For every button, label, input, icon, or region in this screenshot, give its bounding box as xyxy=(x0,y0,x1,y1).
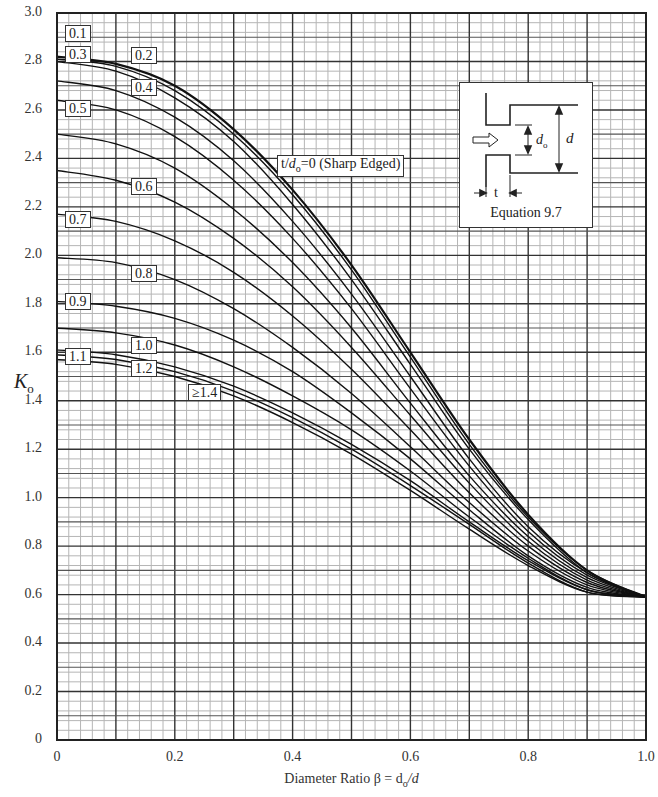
inset-label-do-sub: o xyxy=(543,140,548,150)
y-tick-label: 0.4 xyxy=(2,634,42,650)
sharp-label-prefix: t/ xyxy=(281,156,289,171)
inset-label-d: d xyxy=(566,130,574,147)
curve-label: 1.1 xyxy=(65,348,91,365)
sharp-edged-label: t/do=0 (Sharp Edged) xyxy=(277,155,404,177)
x-tick-label: 1.0 xyxy=(637,749,655,765)
curve-label: 0.8 xyxy=(131,265,157,282)
curve-label: 1.2 xyxy=(131,360,157,377)
y-axis-label: Ko xyxy=(14,370,34,397)
curve-label: 0.6 xyxy=(131,178,157,195)
y-tick-label: 2.0 xyxy=(2,246,42,262)
x-tick-label: 0 xyxy=(54,749,61,765)
inset-label-t: t xyxy=(494,185,498,201)
x-axis-label: Diameter Ratio β = do/d xyxy=(0,771,658,789)
y-tick-label: 0.6 xyxy=(2,586,42,602)
orifice-diagram-inset: do d t Equation 9.7 xyxy=(459,82,593,228)
curve-label: 0.2 xyxy=(131,47,157,64)
curve-label: 0.7 xyxy=(65,211,91,228)
curve-label: 0.5 xyxy=(65,100,91,117)
inset-label-do-var: d xyxy=(536,132,543,147)
curve-label: 1.0 xyxy=(131,337,157,354)
x-axis-label-tail: /d xyxy=(408,771,419,786)
inset-label-do: do xyxy=(536,132,548,150)
x-tick-label: 0.8 xyxy=(519,749,537,765)
x-tick-label: 0.6 xyxy=(402,749,420,765)
curve-label: 0.4 xyxy=(131,79,157,96)
curve-label: 0.3 xyxy=(65,46,91,63)
y-tick-label: 1.2 xyxy=(2,440,42,456)
y-tick-label: 0.2 xyxy=(2,683,42,699)
y-axis-label-sub: o xyxy=(27,381,34,396)
y-tick-label: 2.4 xyxy=(2,149,42,165)
curve-label: 0.1 xyxy=(65,25,91,42)
y-tick-label: 2.2 xyxy=(2,198,42,214)
y-tick-label: 3.0 xyxy=(2,4,42,20)
y-tick-label: 2.6 xyxy=(2,101,42,117)
sharp-label-var: d xyxy=(289,156,296,171)
sharp-label-suffix: =0 (Sharp Edged) xyxy=(301,156,401,171)
curve-label: 0.9 xyxy=(65,293,91,310)
curve-label: ≥1.4 xyxy=(188,384,221,401)
y-tick-label: 1.8 xyxy=(2,295,42,311)
x-axis-label-main: Diameter Ratio β = d xyxy=(284,771,402,786)
y-tick-label: 0.8 xyxy=(2,537,42,553)
x-tick-label: 0.4 xyxy=(284,749,302,765)
y-tick-label: 1.0 xyxy=(2,489,42,505)
y-tick-label: 1.6 xyxy=(2,343,42,359)
x-tick-label: 0.2 xyxy=(166,749,184,765)
y-axis-label-main: K xyxy=(14,370,27,392)
inset-caption: Equation 9.7 xyxy=(460,205,592,221)
y-tick-label: 2.8 xyxy=(2,52,42,68)
y-tick-label: 0 xyxy=(2,731,42,747)
